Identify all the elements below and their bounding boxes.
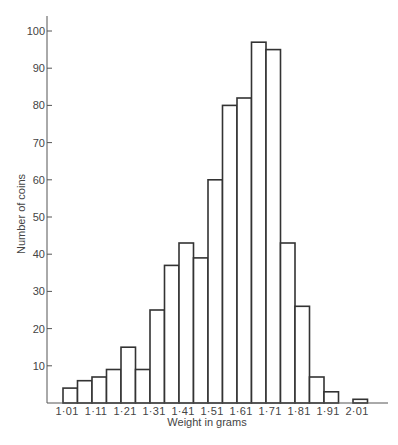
- y-axis-ticks: 102030405060708090100: [27, 25, 52, 372]
- x-axis-title: Weight in grams: [167, 416, 247, 428]
- histogram-bar: [237, 98, 252, 403]
- y-tick-label: 100: [27, 25, 45, 37]
- histogram-bar: [92, 377, 107, 403]
- y-tick-label: 60: [33, 174, 45, 186]
- y-tick-label: 90: [33, 62, 45, 74]
- histogram-bar: [295, 306, 310, 403]
- histogram-bar: [194, 258, 209, 403]
- histogram-bar: [165, 265, 180, 403]
- histogram-bar: [136, 370, 151, 404]
- y-tick-label: 70: [33, 137, 45, 149]
- x-tick-label: 2·01: [345, 405, 368, 417]
- x-tick-label: 1·81: [287, 405, 310, 417]
- x-tick-label: 1·91: [316, 405, 339, 417]
- histogram-chart: 102030405060708090100 1·011·111·211·311·…: [0, 0, 398, 445]
- x-tick-label: 1·11: [85, 405, 107, 417]
- histogram-bar: [252, 42, 267, 403]
- histogram-bar: [266, 50, 281, 403]
- histogram-bar: [121, 347, 136, 403]
- y-tick-label: 20: [33, 323, 45, 335]
- y-axis-title: Number of coins: [15, 173, 27, 254]
- y-tick-label: 50: [33, 211, 45, 223]
- histogram-bar: [63, 388, 78, 403]
- y-tick-label: 30: [33, 285, 45, 297]
- histogram-bar: [150, 310, 165, 403]
- histogram-bar: [281, 243, 296, 403]
- y-tick-label: 10: [33, 360, 45, 372]
- x-tick-label: 1·31: [142, 405, 165, 417]
- histogram-bar: [324, 392, 339, 403]
- y-tick-label: 80: [33, 99, 45, 111]
- x-tick-label: 1·71: [258, 405, 281, 417]
- y-tick-label: 40: [33, 248, 45, 260]
- histogram-bar: [179, 243, 194, 403]
- histogram-bar: [208, 180, 223, 403]
- histogram-bar: [223, 105, 238, 403]
- x-tick-label: 1·21: [113, 405, 136, 417]
- histogram-bar: [353, 399, 368, 403]
- histogram-bars: [63, 42, 368, 403]
- histogram-bar: [78, 381, 93, 403]
- histogram-bar: [107, 370, 122, 404]
- histogram-bar: [310, 377, 325, 403]
- x-tick-label: 1·01: [55, 405, 78, 417]
